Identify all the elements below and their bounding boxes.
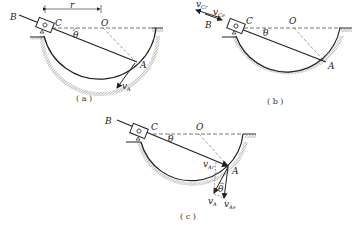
label-O: O	[289, 16, 297, 26]
label-vAr: vAr	[203, 159, 215, 170]
label-theta: θ	[168, 134, 174, 144]
caption-c: ( c )	[180, 212, 196, 221]
diagram-canvas: B C r O θ A vA ( a ) vCr vCe B C O θ A (	[0, 0, 356, 235]
slider-C	[36, 17, 55, 32]
label-C: C	[55, 18, 62, 28]
label-C: C	[246, 16, 253, 26]
label-vA: vA	[122, 81, 131, 92]
label-A: A	[139, 60, 147, 70]
label-r: r	[70, 0, 75, 10]
label-theta: θ	[263, 28, 269, 38]
label-B: B	[204, 20, 212, 30]
pivot-support	[136, 137, 140, 140]
figure-b: vCr vCe B C O θ A ( b )	[196, 0, 352, 106]
label-O: O	[101, 18, 109, 28]
label-B: B	[104, 116, 112, 126]
caption-b: ( b )	[267, 97, 283, 106]
semicircle-track	[236, 28, 340, 72]
caption-a: ( a )	[76, 94, 92, 103]
label-B: B	[9, 12, 17, 22]
figure-c: B C O θ vAr A θ vA vAe ( c )	[104, 116, 256, 221]
label-theta: θ	[73, 30, 79, 40]
label-A: A	[327, 61, 335, 71]
semicircle-track	[44, 28, 156, 79]
slider-C	[130, 123, 149, 138]
dashed-radius	[103, 28, 136, 62]
label-vCe: vCe	[213, 7, 225, 18]
label-vA: vA	[208, 196, 217, 207]
label-O: O	[196, 122, 204, 132]
label-vAe: vAe	[224, 199, 236, 210]
slider-C	[227, 18, 246, 33]
figure-a: B C r O θ A vA ( a )	[9, 0, 163, 103]
label-A: A	[231, 166, 239, 176]
label-vCr: vCr	[196, 0, 208, 10]
label-theta2: θ	[218, 184, 224, 194]
pivot-support	[40, 30, 44, 33]
label-C: C	[151, 122, 158, 132]
dashed-radius	[294, 28, 325, 62]
